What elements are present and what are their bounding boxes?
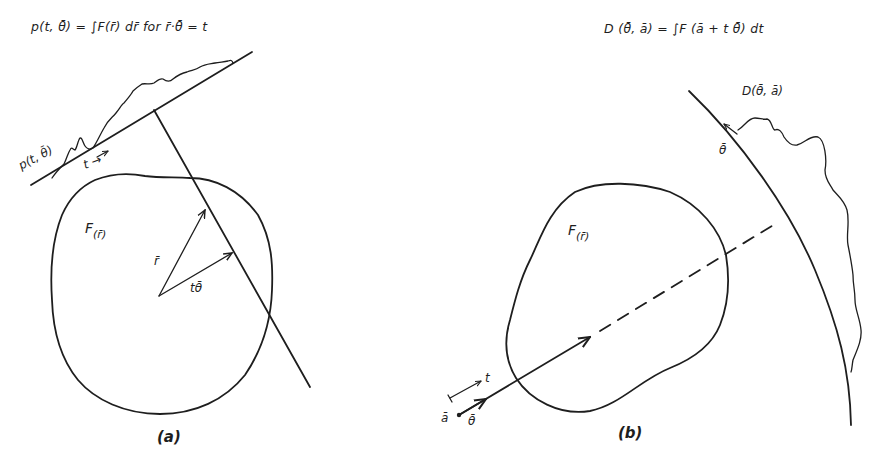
projection-profile-curve [52,60,233,178]
object-label-subscript: (r̄) [93,228,106,241]
object-label-b-subscript: (r̄) [576,230,589,243]
t-direction-arrow-b [450,381,481,398]
point-a-dot [457,413,461,417]
panel-a [31,52,310,414]
direction-label: θ̄ [468,414,475,428]
object-label-a: F(r̄) [85,220,106,236]
point-a-label: ā [441,411,448,425]
t-label-b: t [485,371,490,385]
ray-dashed [600,224,775,331]
theta-arrow-label: θ̄ [719,143,726,157]
equation-b: D (θ̄, ā) = ∫F (ā + t θ̄) dt [604,21,764,36]
vector-t-theta-label: tθ̄ [190,281,202,295]
integration-line [154,110,310,387]
object-label-main: F [85,220,93,236]
object-outline-b [506,184,728,412]
projection-diagram [0,0,884,458]
equation-a: p(t, θ̄) = ∫F(r̄) dr̄ for r̄·θ̄ = t [31,19,207,34]
t-start-tick [448,395,452,402]
projection-profile-curve-b [738,118,861,372]
detector-arc [689,91,851,425]
object-label-b: F(r̄) [568,222,589,238]
object-label-b-main: F [568,222,576,238]
caption-b: (b) [618,424,642,442]
profile-label-b: D(θ̄, ā) [742,84,783,98]
projection-axis-line [31,52,252,185]
panel-b [448,91,861,425]
vector-r-label: r̄ [154,254,159,268]
theta-direction-arrow [459,399,486,415]
caption-a: (a) [157,428,181,446]
